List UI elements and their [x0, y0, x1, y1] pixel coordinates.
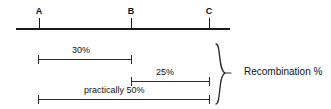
recombination-legend-label: Recombination % [244, 66, 322, 78]
interval-label-bc: 25% [156, 67, 174, 78]
locus-tick-a [39, 18, 40, 28]
linkage-map-figure: A B C 30% 25% practically 50% Recombinat… [0, 0, 331, 109]
interval-cap-ac-left [38, 95, 39, 104]
interval-bar-ac [38, 99, 210, 100]
locus-label-c: C [202, 6, 216, 16]
interval-bar-bc [131, 81, 210, 82]
chromosome-line [16, 28, 230, 30]
interval-cap-ab-left [38, 55, 39, 64]
interval-cap-ab-right [131, 55, 132, 64]
locus-tick-b [131, 18, 132, 28]
interval-label-ab: 30% [72, 45, 90, 56]
locus-label-b: B [124, 6, 138, 16]
locus-label-a: A [32, 6, 46, 16]
interval-label-ac: practically 50% [84, 85, 145, 96]
interval-bar-ab [38, 59, 132, 60]
locus-tick-c [209, 18, 210, 28]
recombination-brace [210, 42, 238, 108]
